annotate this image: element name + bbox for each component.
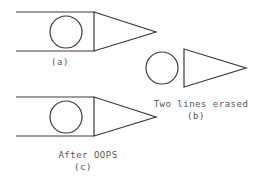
- panel-a: (a): [16, 12, 156, 67]
- triangle-shape: [184, 49, 246, 87]
- panel-a-label: (a): [51, 57, 69, 67]
- panel-b: Two lines erased (b): [146, 49, 248, 121]
- panel-b-label: (b): [187, 111, 205, 121]
- panel-c-caption: After OOPS: [58, 150, 117, 160]
- triangle-shape: [94, 12, 156, 51]
- panel-c: After OOPS (c): [16, 97, 156, 172]
- diagram-canvas: (a) Two lines erased (b) After OOPS (c): [0, 0, 262, 176]
- panel-b-caption: Two lines erased: [154, 99, 249, 109]
- panel-c-label: (c): [74, 162, 92, 172]
- circle-shape: [50, 16, 82, 48]
- triangle-shape: [94, 97, 156, 136]
- circle-shape: [50, 101, 82, 133]
- circle-shape: [146, 52, 178, 84]
